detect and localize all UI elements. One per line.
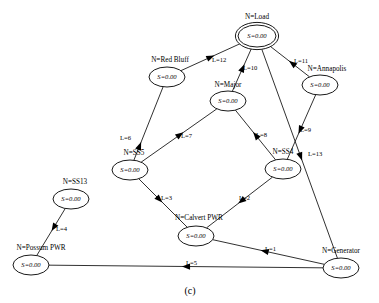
edge-label-l9: L=9: [300, 126, 312, 133]
node-name-label-ss13: N=SS13: [63, 178, 88, 186]
node-name-label-annapolis: N=Annapolis: [308, 65, 347, 73]
figure-caption: (c): [184, 285, 195, 297]
graph-node-calvert-pwr[interactable]: S=0.00: [178, 226, 214, 246]
node-name-label-major: N=Major: [215, 81, 242, 89]
node-state-label: S=0.00: [331, 264, 351, 271]
edge-label-l7: L=7: [181, 132, 193, 139]
edge-label-l3: L=3: [161, 194, 173, 201]
node-name-label-red-bluff: N=Red Bluff: [151, 56, 189, 64]
node-state-label: S=0.00: [273, 165, 293, 172]
node-state-label: S=0.00: [157, 73, 177, 80]
graph-node-ss5[interactable]: S=0.00: [112, 160, 148, 180]
edge-label-l12: L=12: [212, 56, 226, 63]
graph-node-generator[interactable]: S=0.00: [323, 258, 359, 278]
graph-node-possum-pwr[interactable]: S=0.00: [13, 255, 49, 275]
node-state-label: S=0.00: [61, 195, 81, 202]
graph-node-red-bluff[interactable]: S=0.00: [149, 67, 185, 87]
directed-graph: S=0.00S=0.00S=0.00S=0.00S=0.00S=0.00S=0.…: [0, 0, 379, 303]
graph-node-ss13[interactable]: S=0.00: [53, 189, 89, 209]
node-name-label-generator: N=Generator: [322, 247, 361, 255]
edge-label-l11: L=11: [294, 57, 308, 64]
edge-label-l13: L=13: [308, 150, 323, 157]
node-state-label: S=0.00: [218, 97, 238, 104]
node-name-label-ss4: N=SS4: [273, 148, 294, 156]
edge-label-l10: L=10: [243, 64, 258, 71]
edge-label-l2: L=2: [239, 194, 250, 201]
node-name-label-ss5: N=SS5: [124, 149, 145, 157]
node-name-label-possum-pwr: N=Possum PWR: [17, 244, 66, 252]
graph-node-annapolis[interactable]: S=0.00: [302, 75, 338, 95]
edge-label-l6: L=6: [120, 134, 132, 141]
node-name-label-load: N=Load: [245, 13, 269, 21]
graph-node-load[interactable]: S=0.00: [235, 22, 278, 49]
arrowhead-l13: [296, 152, 302, 161]
node-state-label: S=0.00: [120, 166, 140, 173]
edge-label-l8: L=8: [256, 131, 268, 138]
figure-canvas: S=0.00S=0.00S=0.00S=0.00S=0.00S=0.00S=0.…: [0, 0, 379, 303]
node-state-label: S=0.00: [186, 232, 206, 239]
graph-node-ss4[interactable]: S=0.00: [265, 159, 301, 179]
edge-label-l5: L=5: [186, 259, 198, 266]
edge-label-l4: L=4: [56, 225, 68, 232]
node-state-label: S=0.00: [21, 261, 41, 268]
node-state-label: S=0.00: [310, 81, 330, 88]
graph-node-major[interactable]: S=0.00: [210, 91, 246, 111]
node-state-label: S=0.00: [247, 32, 267, 39]
node-name-label-calvert-pwr: N=Calvert PWR: [175, 214, 223, 222]
edge-label-l1: L=1: [265, 245, 276, 252]
